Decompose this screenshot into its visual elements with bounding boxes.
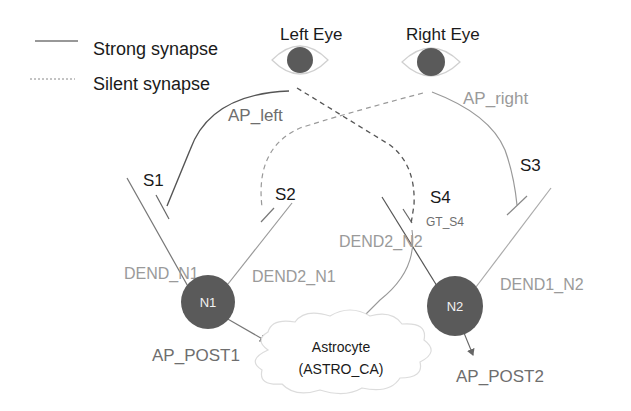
dend1-n2-label: DEND1_N2	[500, 276, 584, 294]
n1-label: N1	[200, 295, 217, 310]
ap-right-label: AP_right	[463, 89, 528, 108]
astrocyte-label-line2: (ASTRO_CA)	[299, 361, 384, 377]
ap-post1-label: AP_POST1	[152, 346, 240, 365]
synapse-s2: S2	[261, 185, 296, 222]
s2-label: S2	[275, 185, 296, 204]
right-eye-label: Right Eye	[406, 25, 480, 44]
right-eye: Right Eye	[402, 25, 480, 76]
left-eye-iris-icon	[287, 47, 313, 73]
legend: Strong synapse Silent synapse	[30, 39, 218, 94]
synapse-s1: S1	[143, 171, 169, 219]
neuron-n2: N2	[427, 276, 483, 336]
s3-postsynaptic-bar	[507, 196, 527, 215]
n2-label: N2	[447, 299, 464, 314]
astrocyte-cloud: Astrocyte (ASTRO_CA)	[255, 310, 431, 394]
right-eye-iris-icon	[417, 48, 445, 76]
left-eye-label: Left Eye	[280, 25, 342, 44]
s1-postsynaptic-bar	[156, 195, 169, 219]
left-eye: Left Eye	[272, 25, 342, 74]
astrocyte-label-line1: Astrocyte	[312, 339, 371, 355]
neuron-n1: N1	[181, 275, 235, 329]
synapse-s3: S3	[507, 156, 541, 215]
n1-to-astrocyte-arrow	[226, 318, 266, 341]
left-eye-silent-path	[297, 88, 414, 224]
synapse-s4: S4 GT_S4	[403, 188, 464, 229]
s3-label: S3	[520, 156, 541, 175]
s4-label: S4	[430, 188, 451, 207]
dend2-n2-label: DEND2_N2	[339, 233, 423, 251]
dend-n1-label: DEND_N1	[124, 265, 199, 283]
s4-gate-label: GT_S4	[426, 215, 464, 229]
s2-postsynaptic-bar	[261, 208, 274, 222]
legend-strong-label: Strong synapse	[93, 39, 218, 59]
dend2-n1-label: DEND2_N1	[252, 268, 336, 286]
s1-label: S1	[143, 171, 164, 190]
dend1-n2-line	[476, 188, 551, 287]
binocular-synapse-diagram: Strong synapse Silent synapse Left Eye R…	[0, 0, 631, 411]
s4-postsynaptic-bar	[403, 209, 412, 223]
legend-silent-label: Silent synapse	[93, 74, 210, 94]
ap-post2-label: AP_POST2	[456, 367, 544, 386]
ap-left-label: AP_left	[228, 106, 283, 125]
